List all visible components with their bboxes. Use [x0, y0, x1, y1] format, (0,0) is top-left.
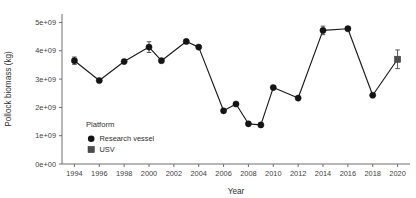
pollock-biomass-chart: 0e+001e+092e+093e+094e+095e+09 199419961…: [0, 0, 416, 198]
x-tick-label: 2016: [340, 169, 356, 178]
legend-marker-research-vessel: [88, 136, 95, 143]
data-point-research-vessel: [96, 77, 102, 83]
x-tick-label: 1996: [91, 169, 107, 178]
x-tick-label: 2004: [190, 169, 206, 178]
x-tick-label: 2020: [389, 169, 405, 178]
chart-canvas: 0e+001e+092e+093e+094e+095e+09 199419961…: [0, 0, 416, 198]
data-point-research-vessel: [220, 108, 226, 114]
x-tick-label: 1994: [66, 169, 82, 178]
data-point-research-vessel: [158, 58, 164, 64]
y-tick-label: 1e+09: [35, 131, 56, 140]
x-tick-label: 2000: [141, 169, 157, 178]
x-tick-label: 2018: [364, 169, 380, 178]
y-tick-label: 0e+00: [35, 160, 56, 169]
y-tick-label: 3e+09: [35, 75, 56, 84]
x-tick-label: 2006: [215, 169, 231, 178]
legend-entry-label: Research vessel: [100, 134, 155, 143]
x-axis: 1994199619982000200220042006200820102012…: [62, 164, 410, 178]
data-point-research-vessel: [258, 122, 264, 128]
y-tick-label: 4e+09: [35, 46, 56, 55]
data-point-research-vessel: [71, 58, 77, 64]
x-tick-label: 2008: [240, 169, 256, 178]
x-tick-label: 1998: [116, 169, 132, 178]
data-point-research-vessel: [233, 101, 239, 107]
data-point-research-vessel: [121, 58, 127, 64]
x-tick-label: 2012: [290, 169, 306, 178]
data-point-research-vessel: [146, 44, 152, 50]
data-point-usv: [394, 56, 400, 62]
x-tick-label: 2014: [315, 169, 331, 178]
data-point-research-vessel: [345, 26, 351, 32]
data-point-research-vessel: [183, 38, 189, 44]
x-tick-label: 2010: [265, 169, 281, 178]
data-point-research-vessel: [370, 92, 376, 98]
data-point-research-vessel: [196, 44, 202, 50]
x-tick-label: 2002: [166, 169, 182, 178]
y-tick-label: 2e+09: [35, 103, 56, 112]
data-point-research-vessel: [295, 95, 301, 101]
legend-marker-usv: [88, 146, 94, 152]
legend-entry-label: USV: [100, 145, 115, 154]
legend-title: Platform: [86, 120, 114, 129]
y-tick-label: 5e+09: [35, 18, 56, 27]
y-axis-title: Pollock biomass (kg): [4, 51, 13, 127]
data-point-research-vessel: [320, 27, 326, 33]
data-point-research-vessel: [245, 121, 251, 127]
y-axis: 0e+001e+092e+093e+094e+095e+09: [35, 14, 62, 169]
x-axis-title: Year: [228, 187, 245, 196]
data-point-research-vessel: [270, 84, 276, 90]
